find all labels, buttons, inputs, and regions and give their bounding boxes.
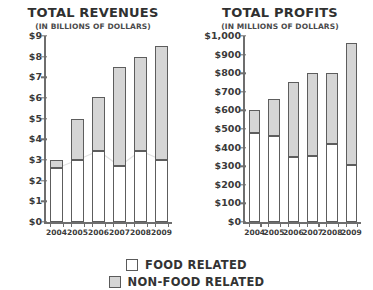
- x-axis-tick-label: 2005: [264, 228, 285, 237]
- x-axis-tick-mark: [147, 222, 148, 227]
- bar-2007: [113, 36, 126, 222]
- bar-2004: [50, 36, 63, 222]
- chart-legend: FOOD RELATEDNON-FOOD RELATED: [0, 256, 373, 290]
- bar-segment-food: [155, 160, 168, 222]
- y-axis-tick-label: $500: [215, 124, 241, 134]
- y-axis-tick-label: $7: [29, 72, 42, 82]
- bar-2009: [155, 36, 168, 222]
- x-axis-tick-mark: [92, 222, 93, 227]
- plot-wrapper-revenues: $0$1$2$3$4$5$6$7$8$9 2004200520062007200…: [0, 36, 186, 252]
- bar-segment-food: [268, 136, 280, 222]
- bar-segment-nonfood: [346, 43, 358, 165]
- x-axis-tick-mark: [155, 222, 156, 227]
- x-axis-tick-mark: [357, 222, 358, 227]
- x-axis-tick-mark: [71, 222, 72, 227]
- y-axis-labels-revenues: $0$1$2$3$4$5$6$7$8$9: [0, 36, 42, 222]
- chart-panel-profits: TOTAL PROFITS (IN MILLIONS OF DOLLARS) $…: [187, 0, 373, 252]
- bar-segment-food: [71, 160, 84, 222]
- bar-2006: [92, 36, 105, 222]
- y-axis-tick-label: $1,000: [204, 31, 241, 41]
- y-axis-tick-label: $3: [29, 155, 42, 165]
- x-axis-tick-mark: [126, 222, 127, 227]
- legend-item[interactable]: NON-FOOD RELATED: [0, 273, 373, 290]
- y-axis-tick-label: $9: [29, 31, 42, 41]
- x-axis-tick-mark: [280, 222, 281, 227]
- bar-segment-food: [50, 168, 63, 222]
- x-axis-tick-mark: [326, 222, 327, 227]
- x-axis-labels-profits: 200420052006200720082009: [245, 228, 361, 242]
- bar-2006: [288, 36, 300, 222]
- y-axis-tick-label: $200: [215, 180, 241, 190]
- legend-label: NON-FOOD RELATED: [128, 275, 265, 289]
- bar-segment-food: [346, 165, 358, 222]
- bar-segment-nonfood: [113, 67, 126, 166]
- plot-area-profits: [245, 36, 361, 222]
- bar-2009: [346, 36, 358, 222]
- bar-segment-nonfood: [134, 57, 147, 151]
- y-axis-tick-label: $6: [29, 93, 42, 103]
- bar-2005: [268, 36, 280, 222]
- bar-segment-nonfood: [71, 119, 84, 160]
- y-axis-tick-label: $400: [215, 143, 241, 153]
- y-axis-tick-label: $8: [29, 52, 42, 62]
- x-axis-tick-mark: [260, 222, 261, 227]
- y-axis-tick-label: $0: [228, 217, 241, 227]
- legend-label: FOOD RELATED: [145, 258, 247, 272]
- x-axis-tick-label: 2009: [341, 228, 362, 237]
- y-axis-tick-label: $0: [29, 217, 42, 227]
- x-axis-tick-mark: [268, 222, 269, 227]
- x-axis-tick-label: 2004: [46, 228, 67, 237]
- y-axis-tick-label: $1: [29, 196, 42, 206]
- bar-segment-nonfood: [326, 73, 338, 144]
- x-axis-tick-label: 2005: [67, 228, 88, 237]
- legend-swatch-other: [109, 276, 121, 288]
- bar-segment-nonfood: [50, 160, 63, 168]
- x-axis-tick-mark: [338, 222, 339, 227]
- y-axis-tick-label: $700: [215, 87, 241, 97]
- x-axis-tick-label: 2008: [130, 228, 151, 237]
- x-axis-tick-mark: [134, 222, 135, 227]
- bar-2007: [307, 36, 319, 222]
- chart-title-revenues: TOTAL REVENUES: [0, 6, 186, 20]
- bar-segment-food: [92, 151, 105, 222]
- x-axis-tick-label: 2008: [322, 228, 343, 237]
- x-axis-labels-revenues: 200420052006200720082009: [46, 228, 172, 242]
- x-axis-tick-label: 2009: [151, 228, 172, 237]
- x-axis-tick-mark: [113, 222, 114, 227]
- plot-wrapper-profits: $0$100$200$300$400$500$600$700$800$900$1…: [187, 36, 373, 252]
- bar-segment-nonfood: [155, 46, 168, 160]
- x-axis-tick-mark: [168, 222, 169, 227]
- x-axis-tick-mark: [50, 222, 51, 227]
- bar-2005: [71, 36, 84, 222]
- bar-segment-nonfood: [249, 110, 261, 132]
- x-axis-tick-mark: [105, 222, 106, 227]
- chart-panel-revenues: TOTAL REVENUES (IN BILLIONS OF DOLLARS) …: [0, 0, 186, 252]
- bar-segment-food: [307, 156, 319, 222]
- y-axis-tick-label: $4: [29, 134, 42, 144]
- x-axis-tick-label: 2006: [88, 228, 109, 237]
- bar-segment-food: [134, 151, 147, 222]
- x-axis-tick-mark: [84, 222, 85, 227]
- y-axis-labels-profits: $0$100$200$300$400$500$600$700$800$900$1…: [187, 36, 241, 222]
- x-axis-tick-mark: [249, 222, 250, 227]
- chart-title-profits: TOTAL PROFITS: [187, 6, 373, 20]
- y-axis-tick-label: $900: [215, 50, 241, 60]
- bar-segment-nonfood: [268, 99, 280, 136]
- x-axis-tick-mark: [63, 222, 64, 227]
- y-axis-tick-label: $2: [29, 176, 42, 186]
- bar-segment-food: [288, 157, 300, 222]
- bar-segment-nonfood: [307, 73, 319, 156]
- bar-segment-food: [113, 166, 126, 222]
- bar-segment-food: [326, 144, 338, 222]
- x-axis-tick-label: 2006: [283, 228, 304, 237]
- bar-2008: [326, 36, 338, 222]
- trend-line-overlay: [46, 36, 172, 222]
- y-axis-tick-label: $600: [215, 105, 241, 115]
- legend-item[interactable]: FOOD RELATED: [0, 256, 373, 273]
- y-axis-tick-label: $300: [215, 161, 241, 171]
- x-axis-tick-mark: [288, 222, 289, 227]
- bar-2004: [249, 36, 261, 222]
- bar-segment-nonfood: [288, 82, 300, 157]
- x-axis-tick-mark: [346, 222, 347, 227]
